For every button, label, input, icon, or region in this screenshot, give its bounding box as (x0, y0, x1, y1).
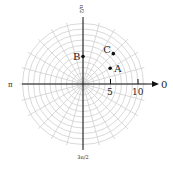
angle-label-pi: π (8, 81, 13, 89)
point-c (112, 52, 116, 56)
angle-label-3pi-half: 3π/2 (77, 154, 88, 160)
tick-label-5: 5 (107, 87, 113, 97)
point-label-b: B (73, 51, 80, 62)
tick-label-10: 10 (132, 87, 144, 97)
point-label-c: C (103, 44, 111, 55)
point-a (108, 67, 112, 71)
angle-label-0: 0 (161, 79, 167, 90)
angle-label-pi-half: π/2 (79, 5, 85, 13)
polar-grid-diagram: 0 π π/2 3π/2 5 10 ABC (0, 0, 173, 169)
axis-arrow-icon (152, 81, 159, 87)
point-b (81, 55, 85, 59)
axes (22, 17, 159, 150)
point-label-a: A (113, 63, 122, 74)
